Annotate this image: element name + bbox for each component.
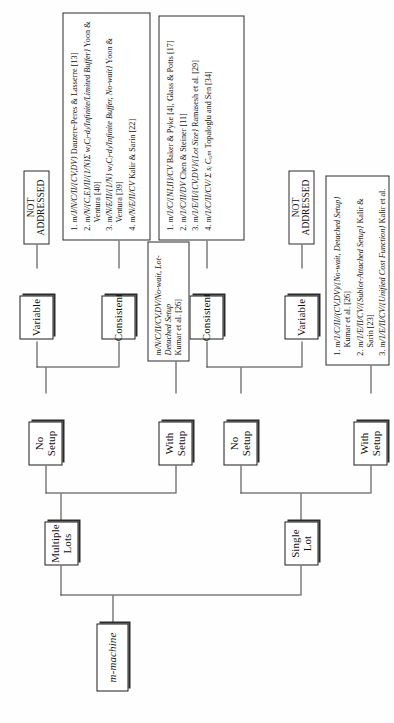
edge-single-consistent [206,341,207,367]
reference-code: m/J/N/C/II/{CV,DV} [69,156,78,222]
reference-code: m/1/C/II//(CV,DV)/{No-wait, Detached Set… [332,196,341,347]
node-single-lot[interactable]: Single Lot [284,521,318,565]
edge-multiple-with-setup [175,465,176,493]
reference-item: m/1/C/II/DV Chen & Steiner [11] [178,21,188,222]
reference-item: m/1/E/II/CV/{Sublot-Attached Setup} Kali… [355,181,375,347]
reference-code: m/N/E/II/{1/N} wⱼCⱼ-dⱼ/Infinite Buffer, … [104,65,113,222]
edge-multiple-variable [36,341,37,367]
node-multiple-no-setup[interactable]: No Setup [28,421,62,465]
reference-item: m/1/C/{NI,II}/CV Baker & Pyke [4], Glass… [165,21,175,222]
box-single-lot-with-setup-references: m/1/C/II//(CV,DV)/{No-wait, Detached Set… [325,175,389,365]
edge-multiple-no-setup [45,465,46,493]
reference-code: m/N/{C,E}/II/{1/N}Σ wⱼCⱼ-dⱼ/Infinite/Lim… [82,48,91,222]
edge-single-variable [301,341,302,367]
edge-multiple-nosetup-out [45,367,46,393]
node-single-variable[interactable]: Variable [284,295,318,339]
edge-multiple-consistent [118,341,119,367]
diagram-rotation-wrapper: m-machine Single Lot Multiple Lots With … [0,0,394,723]
node-single-with-setup[interactable]: With Setup [353,421,387,465]
reference-cite: Kumar et al. [26] [342,291,351,347]
node-multiple-lots[interactable]: Multiple Lots [44,521,78,565]
reference-cite: Kalir & Sarin [22] [127,118,136,178]
reference-code: m/1/C/II/DV [178,181,187,222]
reference-code: m/1/E/II/CV/{Unified Cost Function} [377,225,386,347]
reference-code: m/1/C/{NI,II}/CV [165,165,174,222]
reference-cite: Topaloglu and Sen [34] [203,71,212,148]
edge-root-to-split [112,595,113,623]
reference-code: m/N/E/II/CV [127,181,136,222]
edge-single-consistent-to-refs [206,240,207,268]
edge-multiple-consistent-to-refs [118,240,119,268]
edge-multiple-lots-out [60,493,61,521]
edge-single-with-setup [370,465,371,493]
reference-code: m/N/C/II/CV,DV/No-wait, Lot-Detached Set… [153,247,173,355]
edge-multiple-lots-vertical [45,492,175,493]
edge-multiple-withsetup-to-ref [175,361,176,393]
box-multiple-lots-with-setup-reference: m/N/C/II/CV,DV/No-wait, Lot-Detached Set… [147,241,189,361]
reference-code: m/1/E/II/{CV,DV}/{Lot Size} [190,129,199,222]
reference-item: m/N/{C,E}/II/{1/N}Σ wⱼCⱼ-dⱼ/Infinite/Lim… [82,18,102,222]
box-multiple-lots-no-setup-consistent-references: m/J/N/C/II/{CV,DV} Dauzere-Peres & Lasse… [62,12,150,240]
edge-to-multiple-lots [60,565,61,595]
reference-cite: Chen & Steiner [11] [178,113,187,179]
classification-tree-canvas: m-machine Single Lot Multiple Lots With … [0,0,394,723]
reference-item: m/1/C/II//(CV,DV)/{No-wait, Detached Set… [332,181,352,347]
edge-to-single-lot [300,565,301,595]
edge-single-nosetup-vertical [206,366,301,367]
node-multiple-with-setup[interactable]: With Setup [158,421,192,465]
reference-item: m/1/E/II/CV/{Unified Cost Function} Kali… [377,181,389,347]
edge-single-nosetup-out [240,367,241,393]
reference-code: m/1/E/II/CV/{Sublot-Attached Setup} [355,225,364,347]
leaf-multiple-variable-not-addressed: NOT ADDRESSED [23,170,49,244]
reference-cite: Dauzere-Peres & Lasserre [13] [69,52,78,154]
node-single-consistent[interactable]: Consistent [189,295,223,339]
reference-code: m/1/C/II/CV/ Σ sᵢ Cₒᵢₘ [203,150,212,222]
edge-single-no-setup [240,465,241,493]
edge-single-lot-vertical [240,492,370,493]
edge-single-variable-to-na [301,244,302,268]
reference-cite: Baker & Pyke [4], Glass & Potts [17] [165,40,174,163]
node-root-m-machine[interactable]: m-machine [96,623,128,691]
edge-single-lot-out [300,493,301,521]
edge-multiple-nosetup-vertical [36,366,118,367]
leaf-single-variable-not-addressed: NOT ADDRESSED [288,170,314,244]
reference-item: m/J/N/C/II/{CV,DV} Dauzere-Peres & Lasse… [69,18,79,222]
reference-cite: Ramasesh et al. [29] [190,60,199,127]
node-single-no-setup[interactable]: No Setup [223,421,257,465]
reference-item: m/1/E/II/{CV,DV}/{Lot Size} Ramasesh et … [190,21,200,222]
node-multiple-consistent[interactable]: Consistent [101,295,135,339]
reference-item: m/1/C/II/CV/ Σ sᵢ Cₒᵢₘ Topaloglu and Sen… [203,21,213,222]
box-single-lot-no-setup-consistent-references: m/1/C/{NI,II}/CV Baker & Pyke [4], Glass… [158,15,244,240]
reference-cite: Kumar et al. [26] [173,247,183,355]
edge-single-withsetup-to-refs [370,365,371,393]
reference-item: m/N/E/II/CV Kalir & Sarin [22] [127,18,137,222]
edge-multiple-variable-to-na [36,244,37,268]
reference-item: m/N/E/II/{1/N} wⱼCⱼ-dⱼ/Infinite Buffer, … [104,18,124,222]
edge-level1-vertical [60,594,300,595]
node-multiple-variable[interactable]: Variable [19,295,53,339]
